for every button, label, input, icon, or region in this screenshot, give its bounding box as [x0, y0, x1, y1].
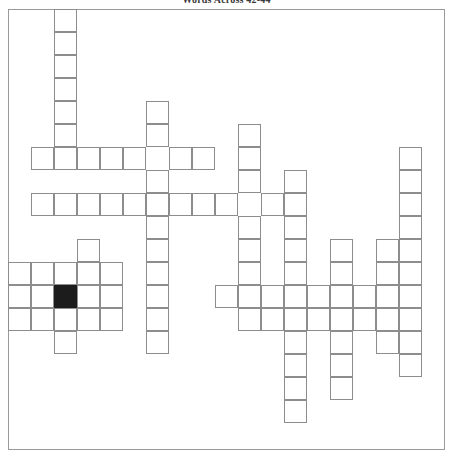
grid-cell[interactable]	[215, 193, 238, 216]
grid-cell[interactable]	[399, 239, 422, 262]
grid-cell[interactable]	[77, 262, 100, 285]
grid-cell[interactable]	[238, 147, 261, 170]
grid-cell[interactable]	[100, 262, 123, 285]
grid-cell[interactable]	[284, 377, 307, 400]
grid-cell[interactable]	[169, 147, 192, 170]
grid-cell[interactable]	[238, 262, 261, 285]
grid-cell[interactable]	[100, 147, 123, 170]
grid-cell[interactable]	[146, 170, 169, 193]
grid-cell[interactable]	[123, 193, 146, 216]
grid-cell[interactable]	[146, 101, 169, 124]
grid-cell[interactable]	[146, 285, 169, 308]
grid-cell[interactable]	[146, 216, 169, 239]
grid-cell[interactable]	[284, 170, 307, 193]
grid-cell[interactable]	[353, 308, 376, 331]
grid-cell[interactable]	[284, 400, 307, 423]
grid-cell[interactable]	[261, 285, 284, 308]
grid-cell[interactable]	[54, 101, 77, 124]
grid-cell[interactable]	[77, 239, 100, 262]
grid-cell[interactable]	[330, 377, 353, 400]
grid-cell[interactable]	[284, 239, 307, 262]
grid-cell[interactable]	[54, 55, 77, 78]
grid-cell[interactable]	[330, 239, 353, 262]
grid-cell[interactable]	[330, 308, 353, 331]
grid-cell[interactable]	[123, 147, 146, 170]
grid-cell[interactable]	[146, 308, 169, 331]
grid-cell[interactable]	[77, 285, 100, 308]
grid-cell[interactable]	[54, 262, 77, 285]
grid-cell[interactable]	[31, 308, 54, 331]
grid-cell[interactable]	[399, 216, 422, 239]
grid-cell[interactable]	[330, 354, 353, 377]
grid-cell[interactable]	[54, 124, 77, 147]
grid-cell[interactable]	[192, 193, 215, 216]
grid-cell[interactable]	[54, 78, 77, 101]
grid-cell[interactable]	[54, 308, 77, 331]
grid-cell[interactable]	[307, 285, 330, 308]
grid-cell[interactable]	[192, 147, 215, 170]
grid-cell[interactable]	[238, 170, 261, 193]
grid-cell[interactable]	[284, 262, 307, 285]
grid-cell[interactable]	[399, 354, 422, 377]
grid-cell[interactable]	[284, 193, 307, 216]
grid-cell[interactable]	[146, 331, 169, 354]
grid-cell[interactable]	[376, 262, 399, 285]
grid-cell[interactable]	[399, 308, 422, 331]
grid-cell[interactable]	[146, 262, 169, 285]
grid-cell[interactable]	[284, 354, 307, 377]
puzzle-page: Words Across 42-44	[0, 0, 453, 459]
grid-cell[interactable]	[146, 239, 169, 262]
grid-cell[interactable]	[54, 147, 77, 170]
grid-cell[interactable]	[307, 308, 330, 331]
grid-cell[interactable]	[54, 32, 77, 55]
grid-cell[interactable]	[54, 9, 77, 32]
grid-cell[interactable]	[261, 308, 284, 331]
grid-cell[interactable]	[100, 193, 123, 216]
grid-cell[interactable]	[238, 124, 261, 147]
grid-cell[interactable]	[284, 308, 307, 331]
grid-cell[interactable]	[31, 262, 54, 285]
grid-cell[interactable]	[31, 147, 54, 170]
grid-cell[interactable]	[54, 193, 77, 216]
grid-cell[interactable]	[399, 331, 422, 354]
grid-cell[interactable]	[399, 285, 422, 308]
grid-block-cell	[54, 285, 77, 308]
grid-cell[interactable]	[238, 285, 261, 308]
grid-cell[interactable]	[77, 308, 100, 331]
grid-cell[interactable]	[238, 308, 261, 331]
grid-cell[interactable]	[399, 170, 422, 193]
grid-cell[interactable]	[330, 285, 353, 308]
grid-cell[interactable]	[31, 193, 54, 216]
grid-cell[interactable]	[31, 285, 54, 308]
grid-cell[interactable]	[77, 193, 100, 216]
grid-cell[interactable]	[238, 239, 261, 262]
crossword-grid[interactable]	[8, 9, 445, 450]
grid-cell[interactable]	[399, 262, 422, 285]
grid-cell[interactable]	[284, 216, 307, 239]
grid-cell[interactable]	[146, 124, 169, 147]
grid-cell[interactable]	[8, 262, 31, 285]
grid-cell[interactable]	[330, 262, 353, 285]
grid-cell[interactable]	[284, 331, 307, 354]
grid-cell[interactable]	[399, 193, 422, 216]
grid-cell[interactable]	[399, 147, 422, 170]
grid-cell[interactable]	[146, 193, 169, 216]
grid-cell[interactable]	[169, 193, 192, 216]
grid-cell[interactable]	[54, 331, 77, 354]
grid-cell[interactable]	[261, 193, 284, 216]
grid-cell[interactable]	[8, 285, 31, 308]
grid-cell[interactable]	[376, 308, 399, 331]
grid-cell[interactable]	[100, 285, 123, 308]
grid-cell[interactable]	[330, 331, 353, 354]
grid-cell[interactable]	[215, 285, 238, 308]
grid-cell[interactable]	[376, 285, 399, 308]
grid-cell[interactable]	[238, 216, 261, 239]
grid-cell[interactable]	[353, 285, 376, 308]
grid-cell[interactable]	[376, 239, 399, 262]
grid-cell[interactable]	[376, 331, 399, 354]
grid-cell[interactable]	[8, 308, 31, 331]
grid-cell[interactable]	[77, 147, 100, 170]
grid-cell[interactable]	[100, 308, 123, 331]
grid-cell[interactable]	[284, 285, 307, 308]
page-title: Words Across 42-44	[0, 0, 453, 6]
